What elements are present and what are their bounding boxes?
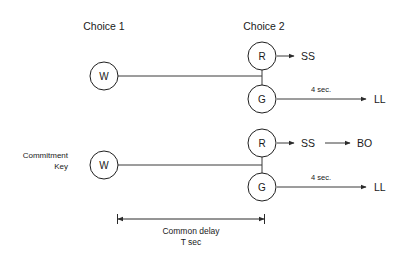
top-row-outcome-ll: LL	[374, 93, 386, 105]
common-delay-caption-line2: T sec	[181, 237, 202, 247]
column-header-choice-1: Choice 1	[83, 20, 125, 32]
commitment-key-label-line1: Commitment	[23, 151, 69, 160]
bottom-row-outcome-ss: SS	[301, 137, 315, 149]
top-row-node-r-letter: R	[258, 51, 265, 62]
bottom-row-node-w-letter: W	[99, 160, 109, 171]
commitment-key-label-line2: Key	[54, 162, 68, 171]
bottom-row-outcome-ll: LL	[374, 181, 386, 193]
bottom-row-delay-label: 4 sec.	[311, 173, 331, 182]
top-row-node-w-letter: W	[99, 71, 109, 82]
top-row-delay-label: 4 sec.	[311, 85, 331, 94]
top-row-node-g-letter: G	[258, 94, 266, 105]
column-header-choice-2: Choice 2	[243, 20, 285, 32]
choice-procedure-diagram: Choice 1 Choice 2 Commitment Key W R SS …	[0, 0, 401, 254]
bottom-row-node-g-letter: G	[258, 182, 266, 193]
top-row-outcome-ss: SS	[301, 50, 315, 62]
bottom-row-outcome-bo: BO	[357, 137, 372, 149]
common-delay-caption-line1: Common delay	[162, 226, 220, 236]
bottom-row-node-r-letter: R	[258, 138, 265, 149]
diagram-canvas: Choice 1 Choice 2 Commitment Key W R SS …	[0, 0, 401, 254]
